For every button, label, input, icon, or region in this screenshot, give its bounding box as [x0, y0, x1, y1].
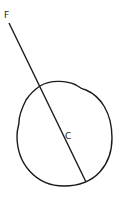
label-c: C [65, 131, 71, 141]
label-f: F [4, 10, 9, 20]
geometry-diagram: F C [0, 0, 121, 197]
